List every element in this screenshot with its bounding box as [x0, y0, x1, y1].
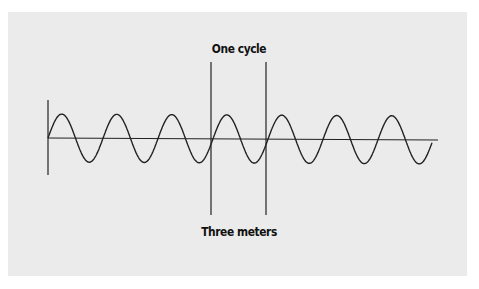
horizontal-axis: [48, 138, 438, 140]
sine-wave: [48, 114, 432, 164]
one-cycle-label: One cycle: [212, 41, 266, 56]
three-meters-label: Three meters: [201, 224, 277, 239]
